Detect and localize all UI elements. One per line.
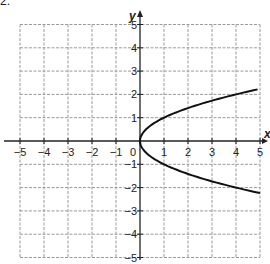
y-tick-label: −1 (124, 158, 137, 170)
y-tick-label: 4 (131, 42, 137, 54)
y-tick-label: −3 (124, 205, 137, 217)
x-tick-label: −3 (62, 146, 75, 158)
x-tick-label: −2 (86, 146, 99, 158)
y-tick-label: −4 (124, 228, 137, 240)
x-tick-label: −1 (110, 146, 123, 158)
y-axis-arrow-icon (137, 10, 143, 17)
y-tick-label: 2 (131, 88, 137, 100)
y-tick-label: −2 (124, 182, 137, 194)
x-tick-label: 5 (257, 146, 263, 158)
y-tick-label: 1 (131, 112, 137, 124)
y-tick-label: 3 (131, 65, 137, 77)
x-tick-label: 3 (209, 146, 215, 158)
x-tick-label: −4 (38, 146, 51, 158)
x-tick-label: −5 (14, 146, 27, 158)
x-tick-label: 1 (161, 146, 167, 158)
x-axis-label: x (263, 127, 270, 141)
x-tick-label: 4 (233, 146, 239, 158)
origin-label: 0 (130, 146, 136, 158)
y-axis-label: y (128, 9, 137, 23)
y-tick-label: −5 (124, 252, 137, 264)
graph: −5−4−3−2−112345−5−4−3−2−1123450xy (0, 0, 270, 264)
x-tick-label: 2 (185, 146, 191, 158)
